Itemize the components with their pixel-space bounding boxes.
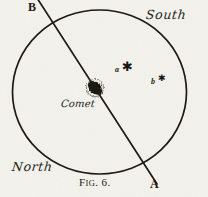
cardinal-label-north: North [11,161,53,174]
star-a-letter: a [115,66,119,74]
figure-diagram: B A South North Comet a ✱ b ✱ FIG. 6. [0,0,208,197]
cardinal-label-south: South [145,9,187,22]
figure-caption-ig: IG [86,178,96,188]
star-b-icon: ✱ [158,74,166,83]
figure-caption-number: . 6. [95,176,110,188]
star-b-letter: b [151,78,155,86]
star-a-icon: ✱ [122,60,133,73]
endpoint-label-a: A [150,178,159,190]
figure-caption: FIG. 6. [79,177,111,188]
endpoint-label-b: B [28,1,36,13]
comet-label: Comet [61,99,96,109]
comet-blob [88,81,102,95]
